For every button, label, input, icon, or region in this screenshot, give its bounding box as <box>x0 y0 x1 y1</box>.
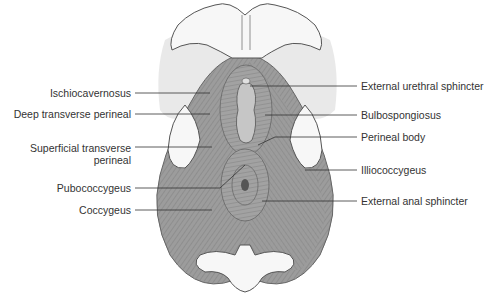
anal-opening <box>241 179 249 191</box>
label-superficial-transverse-perineal: Superficial transverse perineal <box>30 142 131 166</box>
label-perineal-body: Perineal body <box>361 131 425 143</box>
label-external-urethral-sphincter: External urethral sphincter <box>361 80 484 92</box>
vaginal-opening <box>236 83 255 144</box>
label-bulbospongiosus: Bulbospongiosus <box>361 109 441 121</box>
coccyx <box>196 245 294 292</box>
urethral-opening <box>242 78 250 84</box>
label-ischiocavernosus: Ischiocavernosus <box>50 87 131 99</box>
label-line-1: Superficial transverse <box>30 142 131 154</box>
label-deep-transverse-perineal: Deep transverse perineal <box>14 108 131 120</box>
label-coccygeus: Coccygeus <box>79 204 131 216</box>
label-pubococcygeus: Pubococcygeus <box>57 182 131 194</box>
label-line-2: perineal <box>30 154 131 166</box>
label-illiococcygeus: Illiococcygeus <box>361 164 426 176</box>
label-external-anal-sphincter: External anal sphincter <box>361 195 468 207</box>
